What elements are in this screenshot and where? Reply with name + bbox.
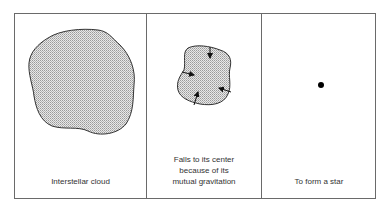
panel-interstellar-cloud: Interstellar cloud — [15, 14, 146, 198]
caption-collapse-line-1: Falls to its center — [147, 154, 261, 165]
panel-collapse: Falls to its center because of its mutua… — [147, 14, 261, 198]
caption-interstellar-cloud: Interstellar cloud — [15, 176, 146, 187]
caption-collapse-line-3: mutual gravitation — [147, 176, 261, 187]
caption-star: To form a star — [262, 176, 376, 187]
caption-collapse-line-2: because of its — [147, 165, 261, 176]
panel-star: To form a star — [262, 14, 376, 198]
